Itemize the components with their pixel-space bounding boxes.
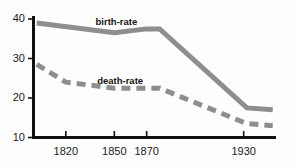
y-tick-label: 30: [1, 52, 25, 64]
chart-series-group: [37, 23, 273, 126]
y-tick-label: 10: [1, 131, 25, 143]
chart-plot-area: [0, 0, 296, 168]
y-tick-label: 20: [1, 91, 25, 103]
y-tick-label: 40: [1, 12, 25, 24]
series-line-birth-rate: [37, 23, 273, 110]
x-tick-label: 1870: [127, 145, 167, 157]
series-annotation-death-rate: death-rate: [97, 75, 143, 86]
series-annotation-birth-rate: birth-rate: [96, 16, 138, 27]
birth-death-rate-line-chart: 40302010 1820185018701930 birth-ratedeat…: [0, 0, 296, 168]
x-tick-label: 1930: [224, 145, 264, 157]
series-line-death-rate: [37, 64, 273, 125]
x-tick-label: 1820: [46, 145, 86, 157]
